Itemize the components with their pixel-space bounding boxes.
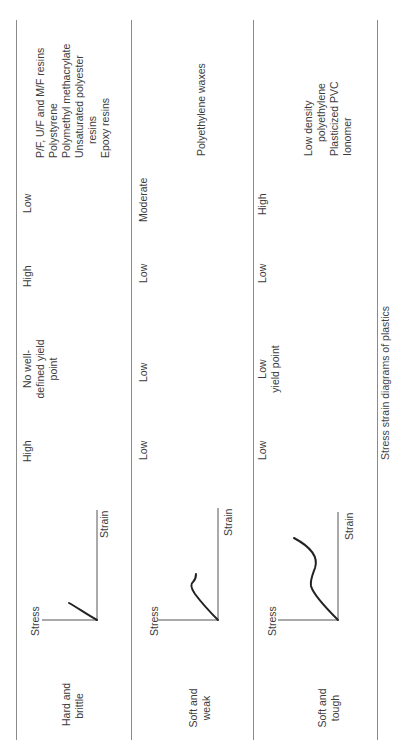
description-line: weak (200, 688, 213, 728)
stress-axis-label: Stress (148, 606, 161, 636)
yield-line: Low (256, 334, 269, 404)
description-line: brittle (73, 686, 86, 726)
row-description: Hard and brittle (60, 686, 86, 726)
description-line: Soft and (187, 688, 200, 728)
stress-axis-label: Stress (29, 606, 42, 636)
example-item: Ionomer (341, 81, 354, 156)
table-rule-top (16, 20, 17, 740)
example-item: Polystyrene (47, 44, 60, 158)
table-rule-row2 (253, 20, 254, 740)
yield-line: No well- (21, 334, 34, 404)
elongation-value: Moderate (137, 178, 150, 222)
yield-stress-value: No well- defined yield point (21, 334, 60, 404)
yield-stress-value: Low yield point (256, 334, 282, 404)
elongation-value: Low (21, 194, 34, 213)
figure-caption: Stress strain diagrams of plastics (379, 306, 391, 460)
example-item: P/F, U/F and M/F resins (34, 44, 47, 158)
examples-list: P/F, U/F and M/F resins Polystyrene Poly… (34, 44, 112, 158)
ultimate-strength-value: High (21, 265, 34, 287)
row-description: Soft and tough (316, 688, 342, 728)
modulus-value: Low (256, 441, 269, 460)
rotated-table-page: Hard and brittle Stress Strain High No w… (0, 0, 402, 754)
description-line: Hard and (60, 686, 73, 726)
yield-stress-value: Low (137, 363, 150, 382)
example-item: Polymethyl methacrylate (60, 44, 73, 158)
example-item: Low density (302, 81, 315, 156)
modulus-value: High (21, 440, 34, 462)
example-item: Epoxy resins (99, 44, 112, 158)
description-line: tough (329, 688, 342, 728)
yield-line: yield point (269, 334, 282, 404)
ultimate-strength-value: Low (137, 264, 150, 283)
table-rule-row1 (131, 20, 132, 740)
stress-axis-label: Stress (266, 606, 279, 636)
example-item: Plasticized PVC (328, 81, 341, 156)
stress-strain-curve (191, 574, 218, 620)
strain-axis-label: Strain (98, 511, 111, 538)
table-rule-bottom (377, 20, 378, 740)
yield-line: point (47, 334, 60, 404)
row-description: Soft and weak (187, 688, 213, 728)
elongation-value: High (256, 193, 269, 215)
examples-list: Low density polyethylene Plasticized PVC… (302, 81, 354, 156)
yield-line: defined yield (34, 334, 47, 404)
stress-strain-curve (69, 603, 97, 620)
strain-axis-label: Strain (343, 513, 356, 540)
description-line: Soft and (316, 688, 329, 728)
example-item: Unsaturated polyester (73, 44, 86, 158)
stress-strain-curve (294, 538, 338, 620)
ultimate-strength-value: Low (256, 264, 269, 283)
modulus-value: Low (137, 441, 150, 460)
examples-list: Polyethylene waxes (195, 63, 208, 156)
example-item: polyethylene (315, 81, 328, 156)
strain-axis-label: Strain (222, 509, 235, 536)
example-item: Polyethylene waxes (195, 63, 208, 156)
example-item: resins (86, 44, 99, 158)
